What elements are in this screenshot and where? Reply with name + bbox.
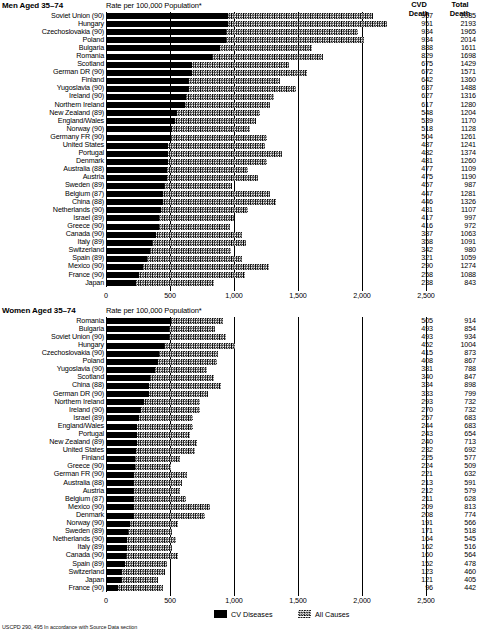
legend-swatch-all-causes-icon	[298, 610, 311, 618]
bar-cv-diseases	[106, 78, 188, 84]
bar-group	[106, 143, 265, 149]
bar-cv-diseases	[106, 577, 121, 583]
bar-cv-diseases	[106, 504, 133, 510]
bar-cv-diseases	[106, 280, 136, 286]
bar-cv-diseases	[106, 45, 220, 51]
bar-cv-diseases	[106, 167, 167, 173]
bar-group	[106, 70, 307, 76]
bar-cv-diseases	[106, 480, 133, 486]
bar-group	[106, 29, 358, 35]
bar-group	[106, 448, 195, 454]
bar-cv-diseases	[106, 215, 159, 221]
bar-group	[106, 577, 158, 583]
axis-tick-label-2000: 2,000	[342, 596, 382, 605]
table-row: Japan238843	[0, 279, 482, 287]
bar-group	[106, 585, 163, 591]
legend-item-all-causes: All Causes	[298, 610, 349, 619]
bar-group	[106, 199, 276, 205]
bar-cv-diseases	[106, 110, 176, 116]
bar-cv-diseases	[106, 318, 171, 324]
legend-label-all-causes: All Causes	[315, 610, 349, 619]
bar-cv-diseases	[106, 399, 144, 405]
panel-women: Women Aged 35–74Rate per 100,000 Populat…	[0, 305, 482, 607]
bar-cv-diseases	[106, 199, 163, 205]
bar-group	[106, 496, 186, 502]
axis-tick-label-0: 0	[86, 291, 126, 300]
bar-cv-diseases	[106, 521, 130, 527]
axis-tick-label-2500: 2,500	[406, 291, 446, 300]
axis-tick-label-500: 500	[150, 291, 190, 300]
bar-group	[106, 334, 226, 340]
bar-group	[106, 456, 180, 462]
bar-cv-diseases	[106, 513, 133, 519]
bar-cv-diseases	[106, 375, 150, 381]
bar-group	[106, 215, 234, 221]
value-cvd-death: 238	[405, 279, 433, 288]
bar-cv-diseases	[106, 240, 152, 246]
bar-group	[106, 569, 165, 575]
plot-area-men: Soviet Union (90)9572085Hungary9512193Cz…	[0, 12, 482, 287]
bar-cv-diseases	[106, 272, 139, 278]
bar-group	[106, 272, 245, 278]
bar-cv-diseases	[106, 62, 192, 68]
bar-group	[106, 440, 197, 446]
bar-group	[106, 399, 200, 405]
bar-group	[106, 94, 274, 100]
bar-cv-diseases	[106, 351, 159, 357]
bar-group	[106, 118, 256, 124]
bar-cv-diseases	[106, 432, 137, 438]
bar-group	[106, 351, 218, 357]
bar-group	[106, 248, 231, 254]
bar-group	[106, 529, 172, 535]
axis-tick-label-2000: 2,000	[342, 291, 382, 300]
bar-group	[106, 159, 267, 165]
bar-cv-diseases	[106, 545, 127, 551]
bar-cv-diseases	[106, 264, 143, 270]
bar-group	[106, 367, 207, 373]
bar-group	[106, 110, 260, 116]
bar-group	[106, 151, 282, 157]
legend-item-cv-diseases: CV Diseases	[214, 610, 273, 619]
bar-group	[106, 343, 235, 349]
panel-header-women: Women Aged 35–74Rate per 100,000 Populat…	[0, 305, 482, 317]
bar-cv-diseases	[106, 448, 136, 454]
bar-group	[106, 472, 187, 478]
bar-cv-diseases	[106, 159, 168, 165]
bar-group	[106, 513, 205, 519]
table-row: France (90)96442	[0, 584, 482, 592]
legend-swatch-cv-diseases-icon	[214, 610, 227, 618]
panel-subtitle-women: Rate per 100,000 Population*	[106, 306, 202, 315]
bar-cv-diseases	[106, 440, 137, 446]
bar-cv-diseases	[106, 207, 161, 213]
bar-cv-diseases	[106, 391, 149, 397]
bar-group	[106, 13, 373, 19]
bar-cv-diseases	[106, 248, 150, 254]
bar-group	[106, 183, 232, 189]
bar-group	[106, 424, 193, 430]
bar-group	[106, 407, 200, 413]
bar-cv-diseases	[106, 529, 128, 535]
bar-cv-diseases	[106, 488, 133, 494]
axis-tick-label-1000: 1,000	[214, 596, 254, 605]
axis-tick-label-1500: 1,500	[278, 291, 318, 300]
bar-group	[106, 224, 230, 230]
value-total-death: 843	[446, 279, 476, 288]
bar-cv-diseases	[106, 456, 135, 462]
bar-cv-diseases	[106, 496, 133, 502]
bar-cv-diseases	[106, 191, 163, 197]
bar-cv-diseases	[106, 143, 168, 149]
bar-cv-diseases	[106, 415, 139, 421]
value-cvd-death: 96	[405, 584, 433, 593]
bar-cv-diseases	[106, 54, 212, 60]
bar-group	[106, 207, 248, 213]
axis-tick-label-500: 500	[150, 596, 190, 605]
bar-group	[106, 553, 178, 559]
axis-tick-label-2500: 2,500	[406, 596, 446, 605]
bar-cv-diseases	[106, 407, 141, 413]
bar-group	[106, 504, 210, 510]
legend-label-cv-diseases: CV Diseases	[231, 610, 273, 619]
bar-cv-diseases	[106, 553, 126, 559]
bar-cv-diseases	[106, 126, 172, 132]
bar-group	[106, 62, 289, 68]
bar-group	[106, 359, 217, 365]
